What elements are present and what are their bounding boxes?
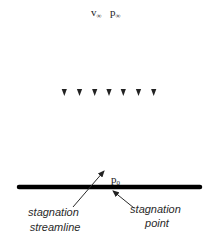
flow-direction-arrow-icon xyxy=(151,89,156,96)
flow-direction-arrow-icon xyxy=(121,89,126,96)
flow-direction-arrow-icon xyxy=(92,89,97,96)
flow-direction-arrow-icon xyxy=(136,89,141,96)
stagnation-streamline-label: stagnation streamline xyxy=(28,206,82,233)
stagnation-flow-diagram: v∞ p∞ p0 stagnation streamline stagnatio… xyxy=(0,0,213,246)
stagnation-point-label: stagnation point xyxy=(130,203,184,229)
flow-direction-arrow-icon xyxy=(77,89,82,96)
flow-direction-arrow-icon xyxy=(62,89,67,96)
stagnation-pressure-label: p0 xyxy=(111,173,121,187)
freestream-velocity-label: v∞ xyxy=(91,6,102,20)
flow-direction-arrow-icon xyxy=(106,89,111,96)
freestream-pressure-label: p∞ xyxy=(110,6,121,20)
streamlines xyxy=(62,89,157,96)
